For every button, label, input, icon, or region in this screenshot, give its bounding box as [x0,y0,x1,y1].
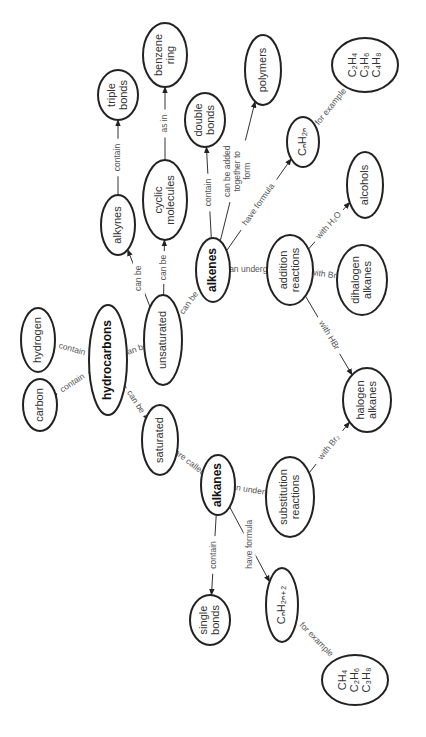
node-label: saturated [153,417,165,463]
node-label: halogenalkanes [354,380,378,419]
edge-unsaturated-to-alkynes: can be [128,250,150,307]
node-single-bonds: singlebonds [190,595,230,645]
edge-label: as in [159,114,169,132]
node-label: alkenes [205,248,219,292]
edge-alkenes-to-double-bonds: contain [203,147,215,238]
edge-addition-reactions-to-halogen-alkanes: with HBr [305,296,352,375]
node-label: CH₄C₂H₆C₃H₈ [336,668,372,693]
edge-label: can be [133,265,143,291]
concept-map: containcontaincan becan beare calledcan … [0,0,426,737]
node-label: CₙH₂ₙ₊₂ [275,586,287,624]
node-dihalogen-alkanes: dihalogenalkanes [337,245,387,315]
edge-label: can be [158,254,168,280]
edge-label: contain [112,144,122,172]
node-label: triplebonds [105,80,129,110]
node-polymers: polymers [245,35,281,105]
node-hydrogen: hydrogen [21,308,55,372]
edge-unsaturated-to-cyclic-molecules: can be [158,240,170,295]
edge-label: have formula [244,519,254,568]
node-addition-reactions: additionreactions [267,235,313,305]
node-label: hydrocarbons [100,320,114,400]
node-alkene-examples: C₂H₄C₃H₆C₄H₈ [332,38,398,92]
edge-hydrocarbons-to-saturated: can be [121,385,149,419]
edge-addition-reactions-to-alcohols: with H₂O [308,202,349,249]
node-label: alcohols [358,164,370,205]
edge-alkanes-to-single-bonds: contain [208,515,220,595]
edge-label: with H₂O [313,209,344,242]
node-double-bonds: doublebonds [185,93,225,147]
node-alkynes: alkynes [101,195,135,255]
node-cnh2n2: CₙH₂ₙ₊₂ [266,568,298,642]
edge-cyclic-molecules-to-benzene-ring: as in [159,87,171,160]
node-hydrocarbons: hydrocarbons [89,305,127,415]
node-label: unsaturated [156,311,168,369]
node-triple-bonds: triplebonds [98,70,138,120]
node-substitution-reactions: substitutionreactions [266,457,314,537]
node-alkenes: alkenes [196,238,230,302]
edge-label: can undergo [225,264,273,274]
node-alkane-examples: CH₄C₂H₆C₃H₈ [322,655,388,705]
node-saturated: saturated [142,405,178,475]
edge-label: for example [313,86,349,127]
node-label: dihalogenalkanes [349,256,373,304]
edge-label: contain [208,541,218,569]
edge-cnh2n2-to-alkane-examples: for example [292,615,340,664]
node-label: alkynes [111,206,123,244]
node-label: hydrogen [31,317,43,363]
edge-hydrocarbons-to-carbon: contain [54,368,92,399]
node-label: alkanes [210,463,224,507]
node-label: polymers [256,47,268,92]
node-label: carbon [33,388,45,422]
edge-alkynes-to-triple-bonds: contain [112,120,124,195]
node-benzene-ring: benzenering [143,23,187,87]
node-alkanes: alkanes [201,455,235,515]
edge-substitution-reactions-to-halogen-alkanes: with Br₂ [309,422,349,473]
edge-alkanes-to-cnh2n2: have formula [230,507,270,582]
edge-label: for example [297,620,335,659]
node-cyclic-molecules: cyclicmolecules [143,160,187,240]
node-label: C₂H₄C₃H₆C₄H₈ [346,52,382,77]
node-alcohols: alcohols [347,152,383,218]
node-label: substitutionreactions [277,469,301,525]
node-cnh2n: CₙH₂ₙ [287,117,319,167]
node-label: additionreactions [277,247,301,292]
node-label: doublebonds [192,103,216,136]
node-label: singlebonds [197,605,221,635]
node-label: CₙH₂ₙ [296,128,308,156]
nodes-layer: hydrocarbonscarbonhydrogensaturatedunsat… [21,23,398,705]
edge-label: contain [203,179,213,207]
node-halogen-alkanes: halogenalkanes [343,368,391,432]
node-unsaturated: unsaturated [144,295,182,385]
edge-hydrocarbons-to-hydrogen: contain [52,339,91,361]
node-carbon: carbon [23,379,57,431]
